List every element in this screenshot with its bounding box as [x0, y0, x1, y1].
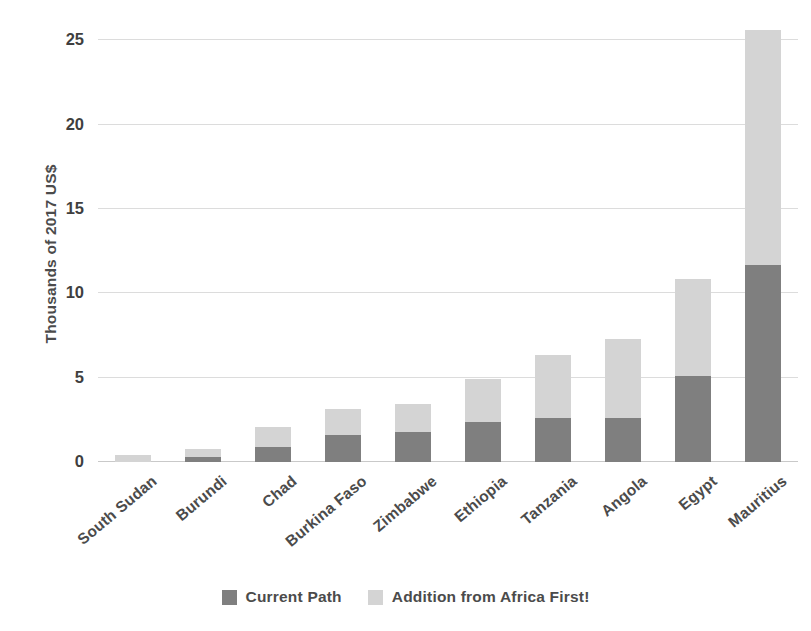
legend-item[interactable]: Current Path: [222, 588, 342, 606]
bar-segment: [745, 30, 781, 264]
bar-chart: Thousands of 2017 US$ 0510152025 South S…: [0, 0, 811, 631]
bar-group: [745, 30, 781, 462]
bar-segment: [325, 435, 361, 462]
y-tick-label: 15: [66, 199, 84, 218]
bar-segment: [395, 404, 431, 432]
legend-swatch-icon: [368, 590, 383, 605]
chart-legend: Current PathAddition from Africa First!: [0, 588, 811, 606]
legend-swatch-icon: [222, 590, 237, 605]
bar-segment: [395, 432, 431, 462]
bar-group: [605, 339, 641, 462]
bar-segment: [465, 379, 501, 422]
bar-segment: [255, 427, 291, 446]
y-tick-label: 20: [66, 114, 84, 133]
bar-group: [255, 427, 291, 462]
bar-segment: [535, 418, 571, 462]
bar-segment: [185, 457, 221, 462]
gridline-20: 20: [98, 124, 798, 125]
bar-group: [535, 355, 571, 462]
bar-group: [185, 449, 221, 462]
y-axis-title: Thousands of 2017 US$: [42, 129, 60, 379]
bar-segment: [115, 455, 151, 462]
bar-group: [325, 409, 361, 462]
plot-area: 0510152025: [98, 10, 798, 462]
bar-segment: [325, 409, 361, 435]
bar-group: [115, 455, 151, 462]
gridline-15: 15: [98, 208, 798, 209]
bar-segment: [675, 279, 711, 376]
bar-group: [465, 379, 501, 462]
y-tick-label: 10: [66, 283, 84, 302]
bar-segment: [185, 449, 221, 457]
legend-item[interactable]: Addition from Africa First!: [368, 588, 590, 606]
x-axis-labels: South SudanBurundiChadBurkina FasoZimbab…: [98, 466, 798, 576]
bar-segment: [465, 422, 501, 462]
bar-segment: [605, 339, 641, 418]
y-tick-label: 0: [75, 452, 84, 471]
legend-label: Addition from Africa First!: [392, 588, 590, 606]
y-tick-label: 25: [66, 30, 84, 49]
gridline-25: 25: [98, 39, 798, 40]
bar-segment: [535, 355, 571, 418]
bar-segment: [745, 265, 781, 462]
bar-segment: [605, 418, 641, 462]
y-tick-label: 5: [75, 367, 84, 386]
bar-group: [395, 404, 431, 462]
bar-group: [675, 279, 711, 462]
legend-label: Current Path: [246, 588, 342, 606]
bar-segment: [675, 376, 711, 462]
bar-segment: [255, 447, 291, 462]
